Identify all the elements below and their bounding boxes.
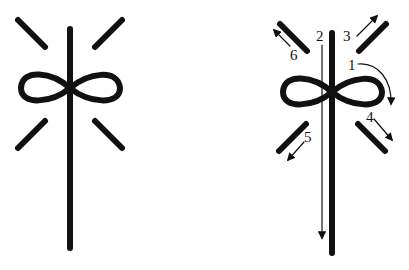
dash-bottom-left (18, 121, 45, 148)
arrow-5 (288, 142, 304, 160)
dash-bottom-right (358, 124, 385, 151)
label-4: 4 (366, 109, 374, 125)
dash-bottom-right (95, 121, 122, 148)
dash-bottom-left (279, 124, 306, 151)
label-2: 2 (316, 28, 324, 44)
symbol-plain (18, 20, 122, 248)
label-3: 3 (343, 28, 351, 44)
label-1: 1 (348, 57, 356, 73)
label-6: 6 (290, 47, 298, 63)
diagram-canvas: 1 2 3 4 5 6 (0, 0, 409, 270)
label-5: 5 (304, 129, 312, 145)
dash-top-right (95, 20, 122, 47)
dash-top-left (18, 20, 45, 47)
dash-top-right (359, 24, 386, 51)
arrow-4 (374, 119, 392, 140)
